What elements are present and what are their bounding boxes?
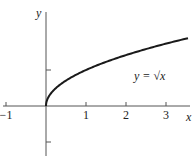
x-tick-label: 3 xyxy=(163,108,169,122)
sqrt-curve xyxy=(46,38,188,106)
x-tick-label: −1 xyxy=(0,108,12,122)
function-annotation: y = √x xyxy=(133,69,166,83)
y-axis-label: y xyxy=(35,6,42,20)
x-axis-label: x xyxy=(185,110,192,124)
sqrt-function-chart: −1123 x y y = √x xyxy=(0,0,196,161)
x-tick-label: 2 xyxy=(123,108,129,122)
axes xyxy=(3,12,190,156)
x-tick-label: 1 xyxy=(83,108,89,122)
